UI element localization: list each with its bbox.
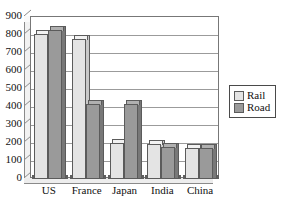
legend-item-rail: Rail <box>234 90 270 101</box>
y-tick-label: 500 <box>0 82 22 93</box>
y-tick-label: 900 <box>0 10 22 21</box>
bar-china-road <box>199 148 213 179</box>
legend-swatch-rail-icon <box>234 91 244 101</box>
x-tick-label-china: China <box>173 184 227 196</box>
bar-chart: 0100200300400500600700800900 USFranceJap… <box>0 0 282 202</box>
legend-label-road: Road <box>247 102 270 113</box>
y-tick-label: 200 <box>0 136 22 147</box>
bar-us-road <box>48 30 62 179</box>
y-tick-label: 0 <box>0 172 22 183</box>
plot-area <box>30 16 219 178</box>
bar-france-rail <box>72 39 86 179</box>
y-tick-label: 300 <box>0 118 22 129</box>
bar-india-road <box>161 147 175 179</box>
y-tick-label: 700 <box>0 46 22 57</box>
y-tick-label: 800 <box>0 28 22 39</box>
y-tick-label: 100 <box>0 154 22 165</box>
legend: Rail Road <box>229 85 276 118</box>
bar-france-road <box>86 104 100 179</box>
legend-swatch-road-icon <box>234 103 244 113</box>
axis-tick-connector <box>23 9 32 16</box>
bar-japan-rail <box>110 143 124 179</box>
legend-item-road: Road <box>234 102 270 113</box>
y-tick-label: 600 <box>0 64 22 75</box>
bar-us-rail <box>34 34 48 179</box>
bar-india-rail <box>147 144 161 179</box>
legend-label-rail: Rail <box>247 90 265 101</box>
bar-japan-road <box>124 104 138 179</box>
y-tick-label: 400 <box>0 100 22 111</box>
bar-china-rail <box>185 148 199 180</box>
